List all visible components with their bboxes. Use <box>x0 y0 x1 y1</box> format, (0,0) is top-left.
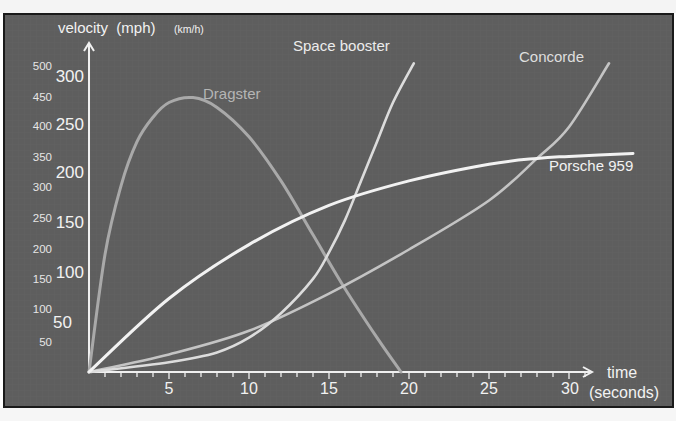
ytick-mph-150: 150 <box>56 213 84 232</box>
grid-texture <box>5 15 672 406</box>
xtick-10: 10 <box>240 380 258 397</box>
bottom-strip <box>0 408 676 421</box>
series-label-space-booster: Space booster <box>293 37 390 54</box>
series-label-dragster: Dragster <box>203 85 261 102</box>
ytick-kmh-100: 100 <box>33 303 52 315</box>
series-label-porsche-959: Porsche 959 <box>549 157 633 174</box>
velocity-chart: 300 250 200 150 100 50 500 450 400 350 3… <box>0 0 676 421</box>
ytick-kmh-350: 350 <box>33 151 52 163</box>
ytick-mph-50: 50 <box>53 313 72 332</box>
ytick-kmh-50: 50 <box>39 336 52 348</box>
ytick-kmh-500: 500 <box>33 60 52 72</box>
ytick-kmh-150: 150 <box>33 273 52 285</box>
ytick-mph-200: 200 <box>56 163 84 182</box>
xtick-15: 15 <box>320 380 338 397</box>
xtick-30: 30 <box>561 380 579 397</box>
series-label-concorde: Concorde <box>519 48 584 65</box>
ytick-kmh-450: 450 <box>33 91 52 103</box>
x-axis-title: time <box>607 364 637 381</box>
ytick-kmh-250: 250 <box>33 212 52 224</box>
ytick-mph-250: 250 <box>56 115 84 134</box>
xtick-20: 20 <box>400 380 418 397</box>
ytick-mph-300: 300 <box>56 67 84 86</box>
ytick-mph-100: 100 <box>56 263 84 282</box>
xtick-25: 25 <box>480 380 498 397</box>
ytick-kmh-400: 400 <box>33 120 52 132</box>
xtick-5: 5 <box>165 380 174 397</box>
y-axis-title-kmh: (km/h) <box>174 23 204 35</box>
ytick-kmh-200: 200 <box>33 243 52 255</box>
x-axis-title-units: (seconds) <box>589 384 659 401</box>
ytick-kmh-300: 300 <box>33 181 52 193</box>
y-axis-title: velocity (mph) <box>58 19 156 36</box>
